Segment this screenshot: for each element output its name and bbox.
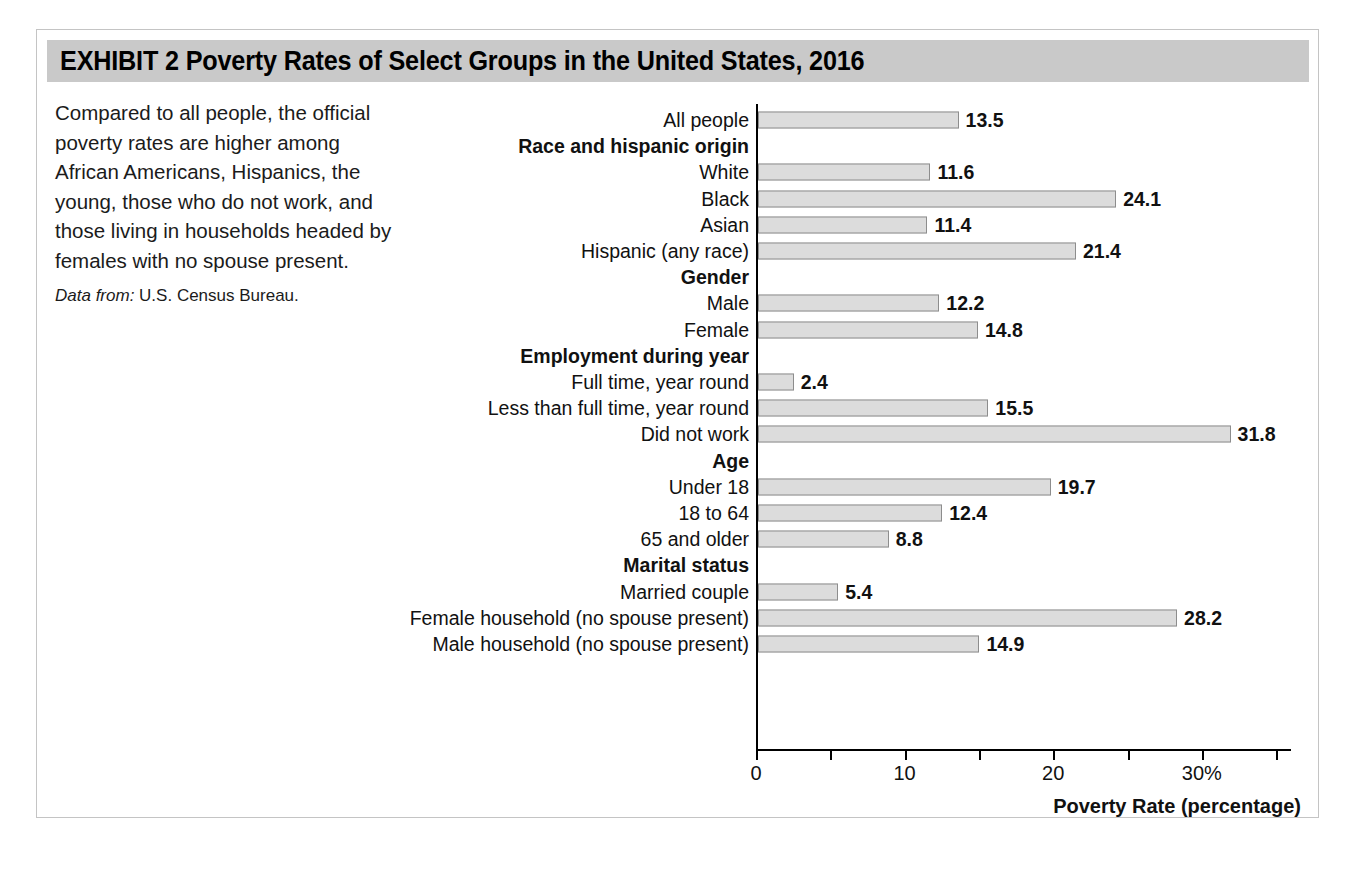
x-tick — [756, 751, 758, 760]
bar-label: All people — [663, 109, 749, 132]
bar — [758, 243, 1076, 260]
bar — [758, 636, 979, 653]
bar-label: 65 and older — [641, 528, 749, 551]
group-label: Race and hispanic origin — [518, 135, 749, 158]
x-tick — [1053, 751, 1055, 760]
bar-label: Under 18 — [669, 475, 749, 498]
bar — [758, 190, 1116, 207]
bar-label: Less than full time, year round — [488, 397, 749, 420]
bar — [758, 295, 939, 312]
bar-chart: 0102030% All people13.5Race and hispanic… — [37, 30, 1320, 819]
bar — [758, 609, 1177, 626]
bar-value-label: 28.2 — [1184, 606, 1222, 629]
bar — [758, 478, 1051, 495]
x-axis-title: Poverty Rate (percentage) — [1053, 795, 1301, 818]
bar-value-label: 15.5 — [995, 397, 1033, 420]
bar-value-label: 21.4 — [1083, 240, 1121, 263]
bar-value-label: 11.6 — [937, 161, 974, 184]
bar — [758, 374, 794, 391]
x-tick-label: 30% — [1182, 762, 1222, 785]
bar-label: Married couple — [620, 580, 749, 603]
bar-value-label: 14.8 — [985, 318, 1023, 341]
bar-label: 18 to 64 — [679, 502, 749, 525]
x-tick — [979, 751, 981, 760]
bar-label: Male — [707, 292, 749, 315]
x-tick-label: 20 — [1042, 762, 1064, 785]
group-label: Employment during year — [520, 344, 749, 367]
x-tick — [1276, 751, 1278, 760]
x-axis-line — [756, 749, 1291, 751]
bar-label: White — [699, 161, 749, 184]
x-tick — [830, 751, 832, 760]
bar-value-label: 12.2 — [946, 292, 984, 315]
bar — [758, 531, 889, 548]
bar-value-label: 24.1 — [1123, 187, 1161, 210]
x-tick — [1128, 751, 1130, 760]
bar-label: Full time, year round — [571, 371, 749, 394]
plot-area: 0102030% All people13.5Race and hispanic… — [756, 104, 1301, 749]
bar-label: Did not work — [641, 423, 749, 446]
bar-label: Male household (no spouse present) — [432, 633, 749, 656]
x-tick — [1202, 751, 1204, 760]
bar — [758, 583, 838, 600]
group-label: Gender — [681, 266, 749, 289]
x-tick-label: 10 — [893, 762, 915, 785]
bar-label: Asian — [700, 213, 749, 236]
bar-label: Female household (no spouse present) — [410, 606, 749, 629]
bar-label: Hispanic (any race) — [581, 240, 749, 263]
bar — [758, 112, 959, 129]
x-tick — [905, 751, 907, 760]
bar-value-label: 8.8 — [896, 528, 923, 551]
bar-value-label: 5.4 — [845, 580, 872, 603]
bar — [758, 216, 927, 233]
exhibit-panel: EXHIBIT 2 Poverty Rates of Select Groups… — [36, 29, 1319, 818]
bar-value-label: 14.9 — [986, 633, 1024, 656]
group-label: Age — [712, 449, 749, 472]
bar-value-label: 19.7 — [1058, 475, 1096, 498]
bar-value-label: 2.4 — [801, 371, 828, 394]
bar-value-label: 13.5 — [966, 109, 1004, 132]
bar — [758, 400, 988, 417]
bar-value-label: 12.4 — [949, 502, 987, 525]
bar — [758, 505, 942, 522]
bar-label: Black — [701, 187, 749, 210]
bar-label: Female — [684, 318, 749, 341]
bar — [758, 321, 978, 338]
bar — [758, 164, 930, 181]
bar-value-label: 11.4 — [934, 213, 971, 236]
bar — [758, 426, 1231, 443]
bar-value-label: 31.8 — [1238, 423, 1276, 446]
x-tick-label: 0 — [750, 762, 761, 785]
group-label: Marital status — [623, 554, 749, 577]
